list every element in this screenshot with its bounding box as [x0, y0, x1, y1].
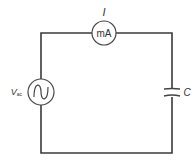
source-voltage-label: Vac	[11, 87, 23, 97]
capacitor: C	[164, 87, 191, 98]
capacitor-plate-top-icon	[164, 89, 180, 90]
ac-source: Vac	[11, 79, 54, 105]
circuit-wires	[41, 33, 172, 153]
bottom-wire	[41, 97, 172, 153]
ammeter-label: mA	[97, 28, 112, 39]
capacitor-label: C	[183, 87, 191, 98]
top-right-wire	[116, 33, 172, 88]
circuit-diagram: mA I Vac C	[0, 0, 196, 164]
current-label: I	[102, 6, 105, 18]
ammeter: mA I	[92, 6, 116, 45]
capacitor-plate-bottom-icon	[164, 95, 180, 96]
top-left-wire	[41, 33, 92, 79]
